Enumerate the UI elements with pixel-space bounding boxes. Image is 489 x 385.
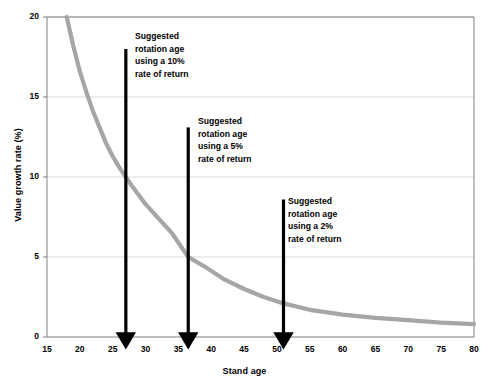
gridlines <box>47 17 474 257</box>
curve-value-growth-rate <box>67 17 474 324</box>
annotation-arrows <box>126 49 284 336</box>
value-growth-rate-chart: Value growth rate (%) Stand age 20151050… <box>0 0 489 385</box>
tick-marks <box>43 17 47 337</box>
x-tick-label: 60 <box>330 344 356 354</box>
annotation-line: Suggested <box>288 195 341 208</box>
y-tick-label: 15 <box>13 91 39 101</box>
x-tick-label: 75 <box>428 344 454 354</box>
chart-canvas <box>0 0 489 385</box>
annotation-line: using a 2% <box>288 220 341 233</box>
annotation-rotation-age-10-percent: Suggested rotation age using a 10% rate … <box>135 30 188 80</box>
annotation-rotation-age-5-percent: Suggested rotation age using a 5% rate o… <box>198 115 251 165</box>
annotation-line: Suggested <box>135 30 188 43</box>
annotation-rotation-age-2-percent: Suggested rotation age using a 2% rate o… <box>288 195 341 245</box>
y-tick-label: 0 <box>13 331 39 341</box>
y-tick-label: 5 <box>13 251 39 261</box>
x-tick-label: 30 <box>133 344 159 354</box>
annotation-line: using a 5% <box>198 140 251 153</box>
x-tick-label: 25 <box>100 344 126 354</box>
x-axis-title: Stand age <box>0 366 489 376</box>
annotation-line: rotation age <box>198 128 251 141</box>
annotation-line: rotation age <box>135 43 188 56</box>
x-tick-label: 45 <box>231 344 257 354</box>
y-tick-label: 20 <box>13 11 39 21</box>
x-tick-label: 20 <box>67 344 93 354</box>
x-tick-label: 65 <box>362 344 388 354</box>
annotation-line: Suggested <box>198 115 251 128</box>
x-tick-label: 35 <box>165 344 191 354</box>
x-tick-label: 40 <box>198 344 224 354</box>
x-tick-label: 55 <box>297 344 323 354</box>
x-tick-label: 70 <box>395 344 421 354</box>
annotation-line: rate of return <box>198 153 251 166</box>
annotation-line: rate of return <box>288 233 341 246</box>
annotation-line: rotation age <box>288 208 341 221</box>
annotation-line: using a 10% <box>135 55 188 68</box>
x-tick-label: 15 <box>34 344 60 354</box>
y-tick-label: 10 <box>13 171 39 181</box>
annotation-line: rate of return <box>135 68 188 81</box>
x-tick-label: 50 <box>264 344 290 354</box>
x-tick-label: 80 <box>461 344 487 354</box>
